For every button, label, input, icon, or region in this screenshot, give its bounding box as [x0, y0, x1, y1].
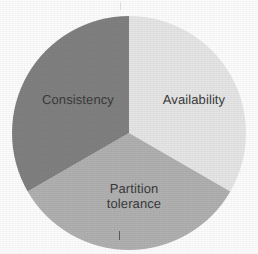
cap-theorem-pie-figure: Consistency Availability Partition toler…: [0, 0, 258, 254]
pie-label-partition-line1: Partition: [87, 181, 181, 196]
pie-label-partition-line2: tolerance: [87, 196, 181, 211]
pie-chart: [0, 0, 258, 254]
pie-label-consistency: Consistency: [30, 92, 126, 107]
bottom-tick-mark: [119, 231, 120, 240]
top-tick-mark: [120, 2, 121, 10]
pie-label-partition-tolerance: Partition tolerance: [87, 181, 181, 211]
pie-label-availability: Availability: [146, 92, 242, 107]
